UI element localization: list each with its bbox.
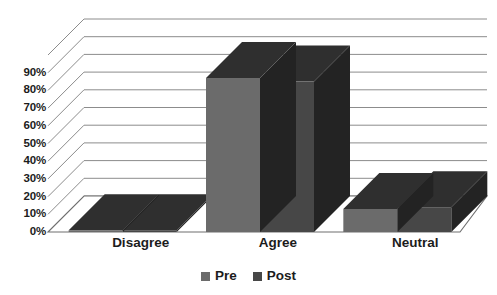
legend-swatch-icon xyxy=(253,272,262,281)
legend-label: Post xyxy=(267,269,296,283)
bar-front-face xyxy=(69,230,123,232)
chart-plot-area xyxy=(0,0,497,260)
legend-label: Pre xyxy=(215,269,237,283)
y-axis-tick-label: 60% xyxy=(2,120,46,132)
y-axis-tick-labels: 0%10%20%30%40%50%60%70%80%90% xyxy=(0,0,46,260)
chart-container: 0%10%20%30%40%50%60%70%80%90% DisagreeAg… xyxy=(0,0,497,295)
y-axis-tick-label: 10% xyxy=(2,208,46,220)
y-axis-tick-label: 80% xyxy=(2,84,46,96)
y-axis-tick-label: 40% xyxy=(2,155,46,167)
x-axis-label-neutral: Neutral xyxy=(355,236,475,251)
x-axis-label-disagree: Disagree xyxy=(81,236,201,251)
y-axis-tick-label: 20% xyxy=(2,191,46,203)
x-axis-label-agree: Agree xyxy=(218,236,338,251)
y-axis-tick-label: 70% xyxy=(2,102,46,114)
x-axis-category-labels: DisagreeAgreeNeutral xyxy=(0,236,497,260)
y-axis-tick-label: 90% xyxy=(2,67,46,79)
legend-item-pre[interactable]: Pre xyxy=(201,269,237,283)
bars-group xyxy=(69,42,488,232)
bar-front-face xyxy=(123,230,177,232)
legend-swatch-icon xyxy=(201,272,210,281)
bar-front-face xyxy=(343,209,397,232)
legend-item-post[interactable]: Post xyxy=(253,269,296,283)
y-axis-tick-label: 50% xyxy=(2,138,46,150)
y-axis-tick-label: 30% xyxy=(2,173,46,185)
bar-agree-pre xyxy=(206,42,296,232)
chart-legend: PrePost xyxy=(0,264,497,288)
bar-front-face xyxy=(206,78,260,232)
